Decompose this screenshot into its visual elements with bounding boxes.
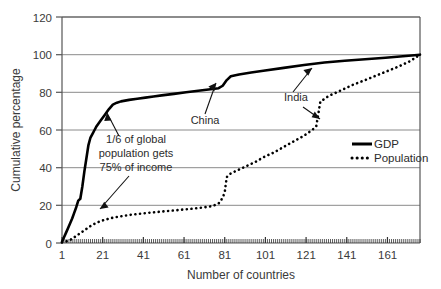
x-tick-label: 161 — [378, 249, 397, 261]
y-axis-ticks — [56, 17, 62, 243]
y-axis-tick-labels: 120 100 80 60 40 20 0 — [33, 12, 52, 250]
x-tick-label: 81 — [218, 249, 231, 261]
x-tick-label: 141 — [337, 249, 356, 261]
y-axis-title: Cumulative percentage — [9, 68, 23, 192]
chart-canvas: 120 100 80 60 40 20 0 1 21 41 61 81 101 … — [0, 0, 441, 289]
x-axis-title: Number of countries — [187, 268, 295, 282]
income-annotation-line3: 75% of income — [100, 161, 173, 173]
y-tick-label: 60 — [39, 125, 52, 137]
y-tick-label: 120 — [33, 12, 52, 24]
china-annotation-label: China — [191, 114, 221, 126]
x-tick-label: 121 — [297, 249, 316, 261]
india-annotation-label: India — [284, 91, 309, 103]
income-annotation-line1: 1/6 of global — [106, 133, 166, 145]
chart-figure: 120 100 80 60 40 20 0 1 21 41 61 81 101 … — [0, 0, 441, 289]
legend-label-gdp: GDP — [374, 138, 399, 150]
income-annotation-line2: population gets — [99, 147, 174, 159]
x-tick-label: 41 — [137, 249, 150, 261]
x-tick-label: 21 — [96, 249, 109, 261]
x-tick-label: 1 — [59, 249, 65, 261]
x-tick-label: 61 — [178, 249, 191, 261]
x-axis-tick-labels: 1 21 41 61 81 101 121 141 161 — [59, 249, 397, 261]
y-tick-label: 20 — [39, 200, 52, 212]
y-tick-label: 0 — [46, 238, 52, 250]
y-tick-label: 100 — [33, 49, 52, 61]
legend-label-population: Population — [374, 152, 428, 164]
x-tick-label: 101 — [256, 249, 275, 261]
y-tick-label: 40 — [39, 162, 52, 174]
y-tick-label: 80 — [39, 87, 52, 99]
